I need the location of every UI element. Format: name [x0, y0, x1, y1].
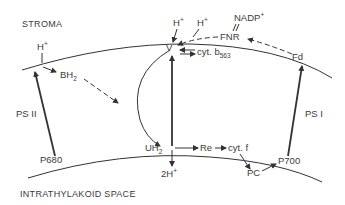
- fd-to-fnr-dashed-arrow: [248, 39, 292, 54]
- h-plus-top1-arrow: [173, 29, 177, 42]
- to-bh2-arrow: [43, 67, 56, 72]
- nadp-fnr-eq2: [236, 24, 239, 31]
- p680-label: P680: [40, 154, 62, 165]
- re-label: Re: [200, 142, 212, 153]
- fd-label: Fd: [292, 51, 303, 62]
- v-label: V: [166, 42, 173, 53]
- cyt-f-label: cyt. f: [228, 142, 248, 153]
- fnr-label: FNR: [220, 31, 240, 42]
- h-plus-left-label: H+: [37, 40, 48, 52]
- bh2-to-pq-dashed-arrow: [84, 79, 118, 103]
- ps1-arrow: [288, 66, 302, 156]
- nadp-fnr-eq1: [233, 24, 236, 31]
- nadp-label: NADP+: [234, 11, 264, 23]
- p700-label: P700: [278, 155, 300, 166]
- ps2-arrow: [35, 72, 55, 156]
- h-plus-top2-label: H+: [197, 16, 208, 28]
- ps1-label: PS I: [305, 108, 323, 119]
- v-to-uh2-curve-arrow: [137, 50, 170, 146]
- bh2-label: BH2: [60, 69, 77, 82]
- stroma-label: STROMA: [22, 19, 62, 29]
- ps2-label: PS II: [16, 108, 37, 119]
- uh2-label: UH2: [145, 142, 163, 155]
- pc-label: PC: [247, 167, 260, 178]
- two-h-plus-label: 2H+: [161, 167, 177, 179]
- photosynthesis-electron-transport-diagram: STROMA INTRATHYLAKOID SPACE PS II P680 H…: [0, 0, 345, 205]
- h-plus-top1-label: H+: [173, 16, 184, 28]
- intrathylakoid-space-label: INTRATHYLAKOID SPACE: [20, 189, 136, 199]
- cyt-b563-label: cyt. b563: [197, 46, 231, 59]
- h-plus-top2-line: [193, 29, 199, 37]
